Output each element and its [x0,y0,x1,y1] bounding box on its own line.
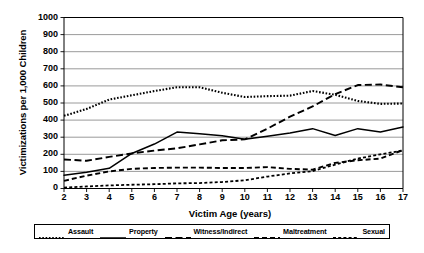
chart-figure: Victimizations per 1,000 Children 1000 9… [0,0,424,253]
medium-dash-line-swatch [254,228,280,236]
solid-line-swatch [100,228,126,236]
legend-item-witness-indirect[interactable]: Witness/Indirect [165,227,248,236]
x-tick-11: 11 [255,192,279,202]
x-tick-2: 2 [52,192,76,202]
legend-items: AssaultPropertyWitness/IndirectMaltreatm… [35,225,389,238]
legend-item-sexual[interactable]: Sexual [333,227,385,236]
x-tick-16: 16 [368,192,392,202]
x-tick-3: 3 [75,192,99,202]
short-dash-line-swatch [333,228,359,236]
dotted-line-swatch [39,228,65,236]
legend-item-maltreatment[interactable]: Maltreatment [254,227,327,236]
x-tick-4: 4 [97,192,121,202]
x-tick-7: 7 [165,192,189,202]
x-tick-15: 15 [346,192,370,202]
x-tick-5: 5 [120,192,144,202]
legend-label: Maltreatment [283,227,327,236]
legend-item-property[interactable]: Property [100,227,158,236]
x-tick-12: 12 [278,192,302,202]
legend-label: Property [129,227,158,236]
chart-legend: AssaultPropertyWitness/IndirectMaltreatm… [34,224,390,239]
x-tick-17: 17 [391,192,415,202]
legend-item-assault[interactable]: Assault [39,227,93,236]
x-tick-14: 14 [323,192,347,202]
x-tick-9: 9 [210,192,234,202]
legend-label: Assault [68,227,93,236]
x-tick-10: 10 [233,192,257,202]
x-tick-6: 6 [142,192,166,202]
legend-label: Sexual [362,227,385,236]
x-tick-13: 13 [301,192,325,202]
long-dash-line-swatch [165,228,191,236]
legend-label: Witness/Indirect [194,227,248,236]
x-tick-8: 8 [188,192,212,202]
x-axis-title: Victim Age (years) [55,208,405,219]
